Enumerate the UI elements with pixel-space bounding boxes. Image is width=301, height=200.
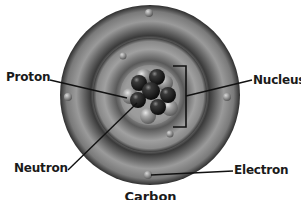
electron-icon bbox=[120, 53, 127, 60]
electron-icon bbox=[144, 171, 152, 179]
proton-label: Proton bbox=[6, 70, 50, 84]
electron-icon bbox=[145, 9, 153, 17]
nucleus-label: Nucleus bbox=[253, 73, 301, 87]
electron-icon bbox=[167, 131, 174, 138]
electron-icon bbox=[64, 93, 72, 101]
electron-label: Electron bbox=[234, 163, 288, 177]
neutron-label: Neutron bbox=[14, 161, 68, 175]
electron-icon bbox=[223, 93, 231, 101]
diagram-caption: Carbon bbox=[0, 189, 301, 200]
